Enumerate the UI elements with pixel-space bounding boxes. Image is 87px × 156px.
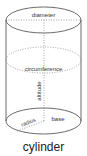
circumference-label: circumference [25, 66, 63, 72]
base-label: base [51, 116, 65, 122]
radius-label: radius [20, 116, 36, 127]
diameter-label: diameter [32, 12, 55, 18]
diagram-title: cylinder [0, 140, 87, 154]
cylinder-diagram: diameter circumference altitude radius b… [0, 0, 87, 156]
base-ellipse-front [6, 121, 81, 134]
cylinder-drawing: diameter circumference altitude radius b… [0, 0, 87, 156]
altitude-label: altitude [36, 81, 42, 101]
base-ellipse-back [6, 108, 81, 121]
